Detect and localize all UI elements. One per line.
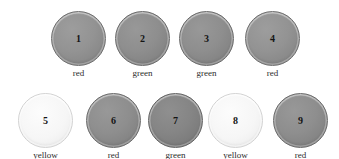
disk-cell: 5yellow (18, 93, 73, 159)
disk-cell: 1red (51, 11, 106, 78)
disk-number: 5 (43, 116, 48, 126)
disk-6[interactable]: 6 (86, 93, 141, 148)
disk-cell: 3green (179, 11, 234, 78)
disk-label: red (267, 68, 279, 78)
disk-number: 9 (298, 116, 303, 126)
disk-label: green (197, 68, 217, 78)
disk-cell: 4red (245, 11, 300, 78)
disk-number: 6 (111, 116, 116, 126)
disk-2[interactable]: 2 (115, 11, 170, 66)
disk-number: 1 (76, 34, 81, 44)
disk-cell: 7green (148, 93, 203, 159)
disk-4[interactable]: 4 (245, 11, 300, 66)
disk-label: green (166, 150, 186, 159)
disk-label: red (73, 68, 85, 78)
disk-number: 3 (204, 34, 209, 44)
disk-label: yellow (223, 150, 248, 159)
disk-label: yellow (33, 150, 58, 159)
disk-label: green (133, 68, 153, 78)
disk-number: 7 (173, 116, 178, 126)
disk-9[interactable]: 9 (273, 93, 328, 148)
disk-number: 2 (140, 34, 145, 44)
disk-cell: 2green (115, 11, 170, 78)
disk-cell: 6red (86, 93, 141, 159)
disk-7[interactable]: 7 (148, 93, 203, 148)
disk-5[interactable]: 5 (18, 93, 73, 148)
disk-3[interactable]: 3 (179, 11, 234, 66)
disk-8[interactable]: 8 (208, 93, 263, 148)
disk-number: 4 (270, 34, 275, 44)
disk-1[interactable]: 1 (51, 11, 106, 66)
disk-label: red (108, 150, 120, 159)
disk-cell: 9red (273, 93, 328, 159)
disk-label: red (295, 150, 307, 159)
disk-cell: 8yellow (208, 93, 263, 159)
disk-number: 8 (233, 116, 238, 126)
figure-canvas: 1red2green3green4red5yellow6red7green8ye… (0, 0, 339, 159)
